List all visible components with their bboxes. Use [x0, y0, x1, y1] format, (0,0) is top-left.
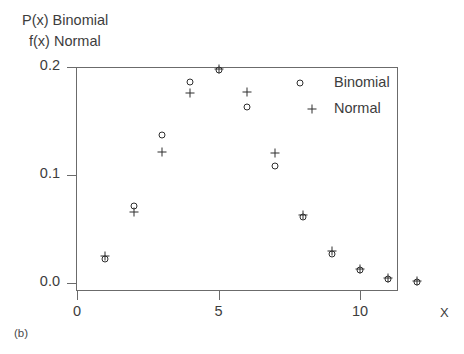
y-axis-tick — [67, 175, 76, 176]
x-axis-tick-label: 5 — [199, 303, 239, 319]
panel-label: (b) — [14, 327, 28, 339]
y-axis-title-line-2: f(x) Normal — [29, 31, 108, 52]
y-axis-tick — [67, 283, 76, 284]
y-axis-tick-label: 0.2 — [18, 57, 60, 73]
y-axis-tick-label: 0.0 — [18, 273, 60, 289]
y-axis-tick — [67, 67, 76, 68]
circle-marker — [413, 278, 420, 285]
y-axis-tick-label: 0.1 — [18, 165, 60, 181]
x-axis-tick — [77, 291, 78, 300]
x-axis-label: X — [440, 305, 449, 320]
legend-label-binomial: Binomial — [334, 74, 390, 90]
figure-panel: P(x) Binomial f(x) Normal 0.00.10.20510 … — [0, 0, 464, 354]
x-axis-tick — [219, 291, 220, 300]
plus-marker — [412, 276, 421, 285]
y-axis-title: P(x) Binomial f(x) Normal — [22, 10, 108, 52]
legend-label-normal: Normal — [334, 100, 381, 116]
x-axis-tick-label: 10 — [340, 303, 380, 319]
x-axis-tick — [360, 291, 361, 300]
y-axis-title-line-1: P(x) Binomial — [22, 10, 108, 31]
x-axis-tick-label: 0 — [57, 303, 97, 319]
